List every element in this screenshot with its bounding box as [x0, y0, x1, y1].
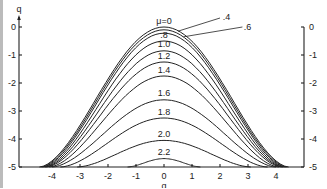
x-tick-label: 2 [217, 172, 222, 181]
x-tick-label: -1 [132, 172, 140, 181]
left-y-tick-label: -1 [8, 51, 16, 60]
x-tick-label: -2 [104, 172, 112, 181]
curve-label: 1.2 [158, 52, 171, 61]
left-y-tick-label: -5 [8, 163, 16, 172]
curve-label: 1.6 [158, 89, 171, 98]
x-axis-label: q [161, 182, 166, 189]
left-y-tick-label: -2 [8, 79, 16, 88]
x-tick-label: 0 [161, 172, 166, 181]
y-axis-arrow-icon [17, 15, 21, 20]
curve-label: .4 [223, 13, 231, 22]
x-tick-label: -3 [76, 172, 84, 181]
curve-label: 1.4 [158, 66, 171, 75]
left-y-tick-label: -4 [8, 135, 16, 144]
chart-figure: 0-1-2-3-4-50-1-2-3-4-5-4-3-2-101234qqμ=0… [0, 0, 327, 188]
left-y-tick-label: -3 [8, 107, 16, 116]
curve-label: μ=0 [156, 17, 171, 26]
curve-label: 1.8 [158, 108, 171, 117]
curve-label: 2.0 [158, 130, 171, 139]
curve-label: 1.0 [158, 40, 171, 49]
curve-label: .8 [160, 31, 168, 40]
right-y-tick-label: -3 [309, 107, 317, 116]
leader-line [184, 27, 243, 37]
right-y-tick-label: 0 [309, 23, 314, 32]
x-tick-label: 4 [273, 172, 278, 181]
right-y-tick-label: -4 [309, 135, 317, 144]
x-tick-label: 3 [245, 172, 250, 181]
right-y-tick-label: -1 [309, 51, 317, 60]
y-axis-label: q [16, 5, 21, 14]
right-y-tick-label: -5 [309, 163, 317, 172]
x-tick-label: -4 [48, 172, 56, 181]
curve-label: .6 [244, 23, 252, 32]
curve-label: 2.2 [158, 148, 171, 157]
left-y-tick-label: 0 [11, 23, 16, 32]
right-y-tick-label: -2 [309, 79, 317, 88]
x-tick-label: 1 [189, 172, 194, 181]
curve-1-8 [60, 118, 267, 167]
leader-line [178, 18, 220, 31]
